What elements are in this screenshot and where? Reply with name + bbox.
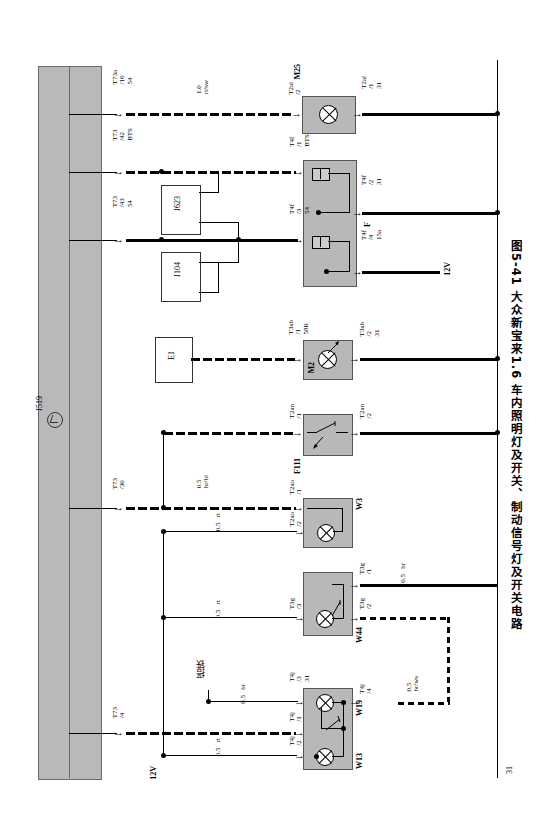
- connector-arrow-t73a-16: →: [113, 109, 124, 118]
- relay-f-coil-top-bar: [320, 168, 321, 179]
- e1-box: [155, 337, 193, 383]
- junction-dot-j623-top: [159, 169, 164, 174]
- wire-label-1: 1.0rt/sw: [196, 80, 211, 94]
- connector-arrow-t2an-2: →: [349, 428, 360, 437]
- connector-arrow-t4f-3: →: [293, 235, 304, 244]
- relay-f-internal-low: [328, 241, 350, 242]
- j519-symbol-icon: [47, 412, 63, 428]
- relay-f-label: F: [364, 222, 372, 227]
- w44-arm-svg: [330, 598, 346, 618]
- left-connector-1-label: T73a/1654: [112, 70, 134, 84]
- connector-arrow-t4j-4: →: [349, 697, 360, 706]
- junction-dot-row4: [495, 356, 500, 361]
- wire-m25-to-bus: [362, 113, 498, 116]
- wire-e1-to-m2: [191, 358, 295, 361]
- connector-arrow-t73-4: →: [113, 728, 124, 737]
- w3-internal-top: [307, 508, 343, 509]
- j519-label: J519: [36, 396, 44, 411]
- wire-t73a16-to-m25: [126, 113, 294, 116]
- connector-arrow-t2al-2: →: [291, 109, 302, 118]
- right-connector-t3ab-1: T3ab/158R: [288, 320, 310, 334]
- right-connector-t4j-3: T4j/331: [289, 672, 311, 682]
- branch-down-from-t7330: [163, 432, 164, 510]
- wire-label-rt-3: 0.5 rt: [215, 738, 222, 756]
- right-vertical-bus: [497, 60, 498, 778]
- right-connector-t2ao-2: T2ao/2: [289, 512, 304, 526]
- relay-f-coil-bottom-bar: [320, 236, 321, 247]
- wire-t3g1-br: [360, 584, 498, 587]
- connector-arrow-t3ab-2: →: [349, 354, 360, 363]
- w44-internal-c: [332, 584, 344, 585]
- right-connector-t4f-2: T4f/231: [361, 175, 383, 185]
- connector-arrow-t73-42: →: [113, 167, 124, 176]
- wire-t4f2-to-bus: [362, 212, 498, 215]
- rail-tap-3: [69, 240, 117, 241]
- left-connector-3-label: T73/4354: [112, 196, 134, 207]
- relay-f-coil-bottom: [312, 236, 330, 249]
- junction-dot-row1: [495, 111, 500, 116]
- connector-arrow-t73-43: →: [113, 235, 124, 244]
- right-connector-t3g-1: T3g/1: [359, 563, 374, 574]
- m25-lamp-icon: [319, 105, 338, 124]
- w19-w13-internal-v: [321, 708, 322, 728]
- rail-tap-1: [69, 114, 117, 115]
- wire-to-f111: [164, 432, 295, 435]
- junction-dot-j104-top: [159, 237, 164, 242]
- relay-f-internal-right: [349, 173, 350, 213]
- m2-label: M2: [308, 362, 316, 374]
- f111-actuator-svg: [312, 434, 328, 450]
- wire-t7343-to-t4f3: [126, 239, 298, 242]
- relay-f-internal-mid: [318, 212, 350, 213]
- branch-rt-vertical: [163, 531, 164, 619]
- j623-lead-top-v: [218, 172, 219, 193]
- j623-lead-bottom: [199, 222, 239, 223]
- junction-dot-row5: [495, 430, 500, 435]
- wire-t3g2-horizontal: [360, 617, 450, 620]
- right-connector-t2ao-1: T2ao/1: [289, 480, 304, 494]
- e1-label: E1: [168, 351, 176, 360]
- w13-arm-svg: [324, 714, 344, 734]
- w13-switch-arm: [324, 714, 344, 738]
- right-connector-t2an-1: T2an/1: [289, 404, 304, 418]
- wire-t3g2-bottom: [398, 702, 450, 705]
- relay-f-internal-bottom: [326, 271, 350, 272]
- m2-ray-svg: [327, 341, 341, 355]
- right-connector-t4j-4: T4j/4: [359, 684, 374, 694]
- connector-arrow-t73-30: →: [113, 503, 124, 512]
- wire-f111-to-bus: [360, 432, 498, 435]
- j104-lead-bottom-v: [218, 262, 219, 293]
- supply-12v-bottom-label: 12V: [150, 766, 158, 780]
- w3-internal-bot: [333, 531, 343, 532]
- rail-tap-5: [69, 733, 117, 734]
- right-connector-t4f-1: T4f/1BTS: [289, 134, 311, 147]
- right-connector-t4f-3: T4f/354: [289, 204, 311, 214]
- j104-lead-top: [199, 262, 239, 263]
- f111-actuator-arrow-icon: [312, 434, 328, 454]
- relay-f-node-bottom: [324, 269, 329, 274]
- wire-t734-to-t4j1: [126, 732, 296, 735]
- wire-label-rt-1: 0.5 rt: [215, 513, 222, 531]
- ground-label-cn: 搭铁: [196, 660, 205, 678]
- right-connector-t3ab-2: T3ab/231: [359, 322, 381, 336]
- wire-t7342-to-t4f1: [126, 171, 296, 174]
- w19-lamp-icon: [316, 694, 334, 712]
- w13-internal-a: [332, 756, 344, 757]
- j623-label: J623: [174, 196, 182, 211]
- wire-label-br-1: 0.5 br: [400, 563, 407, 583]
- right-connector-t3g-2: T3g/2: [359, 598, 374, 609]
- page-number: 31: [505, 766, 514, 774]
- wire-rt-to-w44: [163, 617, 297, 618]
- j623-lead-top: [199, 192, 219, 193]
- j104-label: J104: [174, 262, 182, 277]
- relay-f-internal-right2: [349, 241, 350, 272]
- right-connector-t3g-3: T3g/3: [289, 598, 304, 609]
- wire-label-br-2: 0.5 br: [240, 684, 247, 704]
- left-connector-4-label: T73/30: [112, 478, 127, 489]
- w44-switch-arm: [330, 598, 346, 622]
- left-connector-5-label: T73/4: [112, 707, 127, 718]
- relay-f-internal-top: [328, 173, 350, 174]
- wire-ground-to-w19: [208, 701, 298, 702]
- w3-internal-right: [342, 508, 343, 532]
- wire-12v-to-w13: [163, 755, 297, 756]
- wiring-diagram-page: J519 → T73a/1654 1.0rt/sw → T2al/2 M25 →…: [0, 0, 542, 834]
